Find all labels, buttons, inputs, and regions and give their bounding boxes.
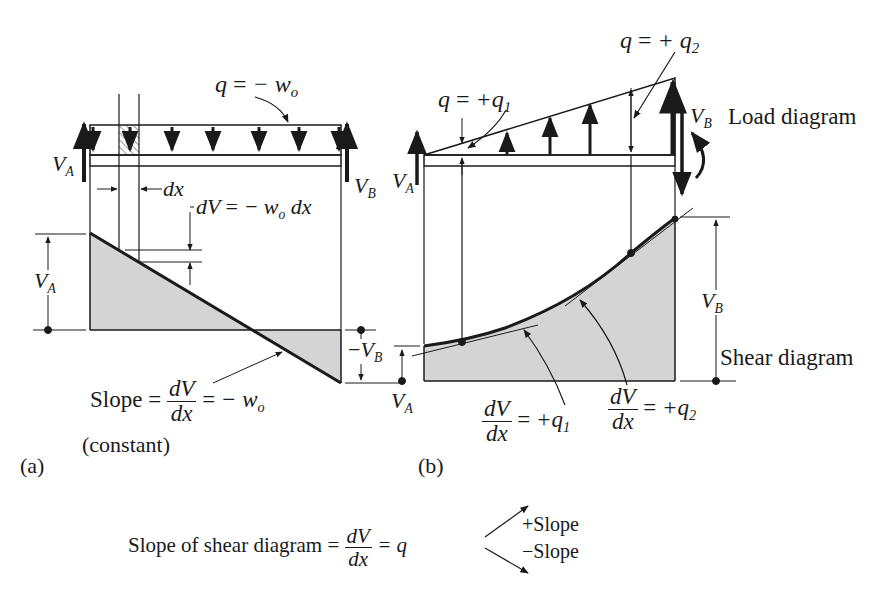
shear-diagram-title: Shear diagram bbox=[720, 346, 853, 369]
reaction-label-vb: VB bbox=[690, 105, 712, 130]
load-label-a: q = − wo bbox=[215, 72, 298, 100]
reaction-label-va: VA bbox=[392, 170, 414, 195]
slope-label-q1: dVdx = +q1 bbox=[482, 397, 570, 446]
panel-a bbox=[33, 94, 400, 383]
dv-label: dV = − wo dx bbox=[196, 196, 312, 221]
minus-slope-label: −Slope bbox=[522, 541, 579, 561]
shear-diagram-b bbox=[412, 208, 693, 381]
panel-a-tag: (a) bbox=[20, 455, 44, 477]
down-load-arrows bbox=[93, 127, 339, 150]
shear-dim-vb: VB bbox=[701, 290, 723, 315]
shear-diagram-a bbox=[90, 233, 341, 383]
summary-equation: Slope of shear diagram = dVdx = q bbox=[128, 525, 407, 570]
slope-label-a: Slope = dVdx = − wo bbox=[90, 377, 265, 426]
load-label-q1: q = +q1 bbox=[438, 87, 511, 115]
shear-dim-va: VA bbox=[391, 390, 413, 415]
up-load-arrows bbox=[507, 82, 673, 154]
beam bbox=[90, 155, 341, 166]
shear-dim-vb: −VB bbox=[348, 339, 382, 364]
shear-dim-va: VA bbox=[34, 270, 56, 295]
dx-label: dx bbox=[163, 178, 184, 200]
slope-label-q2: dVdx = +q2 bbox=[608, 385, 696, 434]
panel-b-tag: (b) bbox=[418, 455, 444, 477]
reaction-label-va: VA bbox=[52, 153, 74, 178]
uniform-load-block bbox=[90, 97, 341, 166]
constant-note: (constant) bbox=[82, 434, 170, 456]
plus-slope-label: +Slope bbox=[522, 514, 579, 534]
load-diagram-title: Load diagram bbox=[728, 105, 856, 128]
moment-arrow bbox=[692, 133, 704, 178]
load-label-q2: q = + q2 bbox=[620, 28, 699, 56]
reaction-label-vb: VB bbox=[354, 175, 376, 200]
